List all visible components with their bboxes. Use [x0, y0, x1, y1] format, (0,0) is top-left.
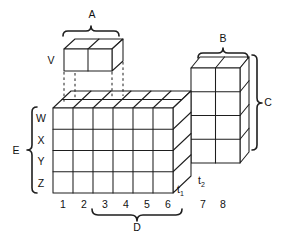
- row-label-w: W: [36, 112, 46, 124]
- col-label-6: 6: [165, 198, 171, 210]
- col-label-4: 4: [123, 198, 129, 210]
- brace-a: [63, 26, 119, 36]
- t1-sub: 1: [180, 190, 184, 197]
- brace-e-label: E: [12, 144, 19, 156]
- brace-d: [92, 209, 182, 221]
- row-label-x: X: [37, 134, 44, 146]
- col-label-3: 3: [102, 198, 108, 210]
- main-block-grid: [53, 91, 191, 193]
- brace-c-label: C: [264, 96, 272, 108]
- col-label-8: 8: [220, 198, 226, 210]
- col-label-7: 7: [200, 198, 206, 210]
- block-diagram: A B C D E V W X Y Z 1 2 3 4 5 6 7 8 t1 t…: [0, 0, 287, 246]
- col-label-2: 2: [81, 198, 87, 210]
- row-label-z: Z: [38, 177, 45, 189]
- brace-b-label: B: [219, 32, 226, 44]
- diagram-canvas: A B C D E V W X Y Z 1 2 3 4 5 6 7 8 t1 t…: [0, 0, 287, 246]
- t2-sub: 2: [201, 181, 205, 188]
- v-slab-block: [64, 39, 123, 71]
- brace-c: [252, 55, 262, 150]
- col-label-1: 1: [60, 198, 66, 210]
- col-label-5: 5: [144, 198, 150, 210]
- row-label-y: Y: [37, 155, 44, 167]
- v-block-label: V: [47, 54, 54, 66]
- right-block-7-8: [191, 57, 249, 163]
- brace-d-label: D: [133, 221, 141, 233]
- brace-a-label: A: [88, 8, 95, 20]
- depth-label-t2: t2: [198, 174, 205, 188]
